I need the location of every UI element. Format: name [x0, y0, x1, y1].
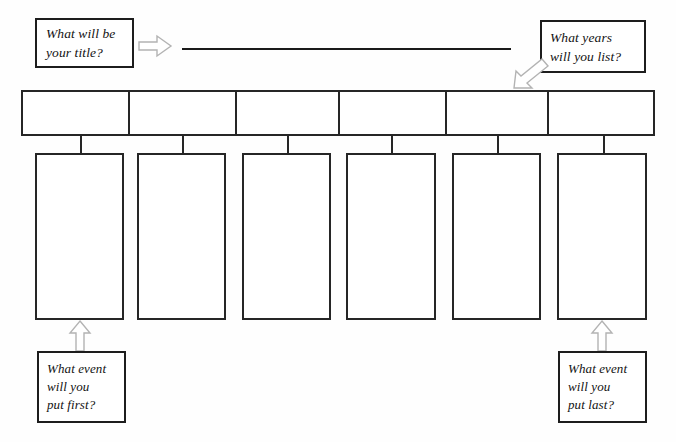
connector-stem-4 [391, 136, 393, 154]
connector-stem-5 [497, 136, 499, 154]
arrow-down-left-icon [512, 58, 550, 90]
event-box-4[interactable] [346, 153, 436, 320]
last-prompt-line-2: will you [568, 378, 640, 396]
title-prompt-line-2: your title? [46, 44, 125, 63]
first-event-prompt-box: What event will you put first? [37, 351, 126, 423]
event-box-3[interactable] [242, 153, 331, 320]
first-prompt-line-1: What event [47, 360, 119, 378]
year-cell-1[interactable] [23, 92, 130, 134]
title-prompt-line-1: What will be [46, 25, 125, 44]
connector-stem-1 [80, 136, 82, 154]
title-prompt-box: What will be your title? [35, 18, 134, 68]
event-box-2[interactable] [137, 153, 226, 320]
year-cell-2[interactable] [130, 92, 236, 134]
arrow-right-icon [138, 35, 172, 57]
years-prompt-line-2: will you list? [550, 48, 638, 67]
years-prompt-line-1: What years [550, 29, 638, 48]
first-prompt-line-2: will you [47, 378, 119, 396]
first-prompt-line-3: put first? [47, 396, 119, 414]
last-prompt-line-1: What event [568, 360, 640, 378]
title-write-line[interactable] [182, 48, 511, 50]
year-cell-3[interactable] [237, 92, 340, 134]
connector-stem-6 [603, 136, 605, 154]
arrow-up-icon [590, 320, 614, 352]
year-cell-6[interactable] [549, 92, 653, 134]
event-box-5[interactable] [452, 153, 541, 320]
year-cell-5[interactable] [447, 92, 548, 134]
event-box-6[interactable] [557, 153, 647, 320]
arrow-up-icon [68, 320, 92, 352]
years-prompt-box: What years will you list? [540, 20, 646, 73]
year-bar [21, 90, 655, 136]
year-cell-4[interactable] [340, 92, 447, 134]
last-event-prompt-box: What event will you put last? [558, 351, 647, 423]
connector-stem-3 [287, 136, 289, 154]
event-box-1[interactable] [35, 153, 124, 320]
connector-stem-2 [182, 136, 184, 154]
last-prompt-line-3: put last? [568, 396, 640, 414]
timeline-worksheet: What will be your title? What years will… [0, 0, 676, 442]
